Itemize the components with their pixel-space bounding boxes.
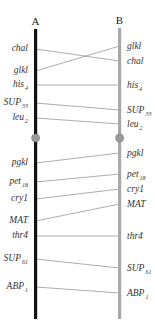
gene-subscript: 18 — [22, 182, 28, 188]
gene-label-b-ABP1: ABP1 — [126, 288, 148, 300]
gene-label-b-SUP33: SUP33 — [127, 105, 151, 117]
link-pgkl — [36, 153, 120, 163]
link-leu2 — [36, 118, 120, 124]
gene-label-a-leu2: leu2 — [12, 112, 28, 124]
chromosome-b-label: B — [116, 14, 123, 26]
gene-label-b-chal: chal — [127, 56, 144, 66]
gene-label-a-thr4: thr4 — [12, 230, 28, 240]
chromosome-comparison-diagram: A B chalglklhis4SUP33leu2pgklpet18cry1MA… — [0, 0, 155, 324]
gene-label-a-pet18: pet18 — [8, 176, 28, 188]
chromosome-b-bar — [118, 28, 121, 319]
gene-name: SUP — [127, 105, 145, 115]
chromosome-a-gene-labels: chalglklhis4SUP33leu2pgklpet18cry1MATthr… — [4, 43, 29, 293]
gene-name: SUP — [127, 263, 145, 273]
gene-subscript: 1 — [145, 294, 148, 300]
gene-name: SUP — [4, 253, 22, 263]
gene-label-b-glkl: glkl — [127, 41, 142, 51]
gene-name: thr4 — [127, 231, 143, 241]
gene-name: SUP — [4, 97, 22, 107]
gene-subscript: 61 — [22, 259, 28, 265]
gene-label-a-pgkl: pgkl — [11, 157, 29, 167]
gene-name: cry1 — [127, 184, 144, 194]
gene-subscript: 33 — [21, 103, 28, 109]
homology-links — [36, 46, 120, 293]
gene-label-b-pgkl: pgkl — [126, 148, 144, 158]
gene-subscript: 2 — [140, 125, 143, 131]
link-cry1 — [36, 189, 120, 199]
gene-label-b-SUP61: SUP61 — [127, 263, 151, 275]
link-SUP33 — [36, 103, 120, 110]
gene-label-a-SUP33: SUP33 — [4, 97, 28, 109]
gene-name: glkl — [14, 65, 29, 75]
gene-subscript: 18 — [140, 175, 146, 181]
chromosome-a-bar — [34, 29, 37, 319]
gene-label-b-cry1: cry1 — [127, 184, 144, 194]
gene-subscript: 1 — [25, 287, 28, 293]
chromosome-b-gene-labels: chalglklhis4SUP33leu2pgklpet18cry1MATthr… — [126, 41, 151, 300]
centromeres — [32, 134, 124, 142]
chromosome-a-label: A — [32, 15, 40, 27]
gene-subscript: 2 — [25, 118, 28, 124]
link-chal — [36, 49, 120, 61]
gene-name: chal — [12, 43, 29, 53]
link-ABP1 — [36, 287, 120, 293]
gene-label-a-SUP61: SUP61 — [4, 253, 28, 265]
gene-name: MAT — [126, 199, 146, 209]
gene-name: pet — [8, 176, 21, 186]
gene-label-b-MAT: MAT — [126, 199, 146, 209]
gene-name: pet — [126, 169, 139, 179]
gene-label-a-cry1: cry1 — [11, 193, 28, 203]
gene-name: his — [13, 79, 24, 89]
link-pet18 — [36, 174, 120, 182]
gene-name: his — [127, 80, 138, 90]
gene-name: ABP — [126, 288, 145, 298]
gene-label-a-MAT: MAT — [8, 215, 28, 225]
centromere-a — [32, 134, 40, 142]
gene-name: cry1 — [11, 193, 28, 203]
gene-subscript: 33 — [144, 111, 151, 117]
gene-name: thr4 — [12, 230, 28, 240]
gene-subscript: 61 — [145, 269, 151, 275]
gene-label-a-chal: chal — [12, 43, 29, 53]
link-MAT — [36, 204, 120, 221]
gene-label-a-ABP1: ABP1 — [6, 281, 28, 293]
link-glkl — [36, 46, 120, 71]
gene-subscript: 4 — [139, 86, 142, 92]
gene-name: chal — [127, 56, 144, 66]
gene-label-a-glkl: glkl — [14, 65, 29, 75]
gene-label-b-his4: his4 — [127, 80, 142, 92]
gene-name: MAT — [8, 215, 28, 225]
gene-label-b-leu2: leu2 — [127, 119, 143, 131]
centromere-b — [116, 134, 124, 142]
gene-name: glkl — [127, 41, 142, 51]
gene-label-b-thr4: thr4 — [127, 231, 143, 241]
gene-name: pgkl — [11, 157, 29, 167]
gene-name: leu — [12, 112, 24, 122]
gene-name: pgkl — [126, 148, 144, 158]
gene-subscript: 4 — [25, 85, 28, 91]
gene-name: leu — [127, 119, 139, 129]
link-SUP61 — [36, 259, 120, 268]
gene-label-a-his4: his4 — [13, 79, 28, 91]
gene-label-b-pet18: pet18 — [126, 169, 146, 181]
gene-name: ABP — [6, 281, 25, 291]
